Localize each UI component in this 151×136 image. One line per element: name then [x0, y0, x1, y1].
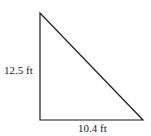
- triangle-figure: 12.5 ft 10.4 ft: [0, 0, 151, 136]
- base-label: 10.4 ft: [78, 122, 107, 134]
- height-label: 12.5 ft: [4, 64, 33, 76]
- triangle-diagram: 12.5 ft 10.4 ft: [0, 0, 151, 136]
- right-triangle: [40, 13, 143, 120]
